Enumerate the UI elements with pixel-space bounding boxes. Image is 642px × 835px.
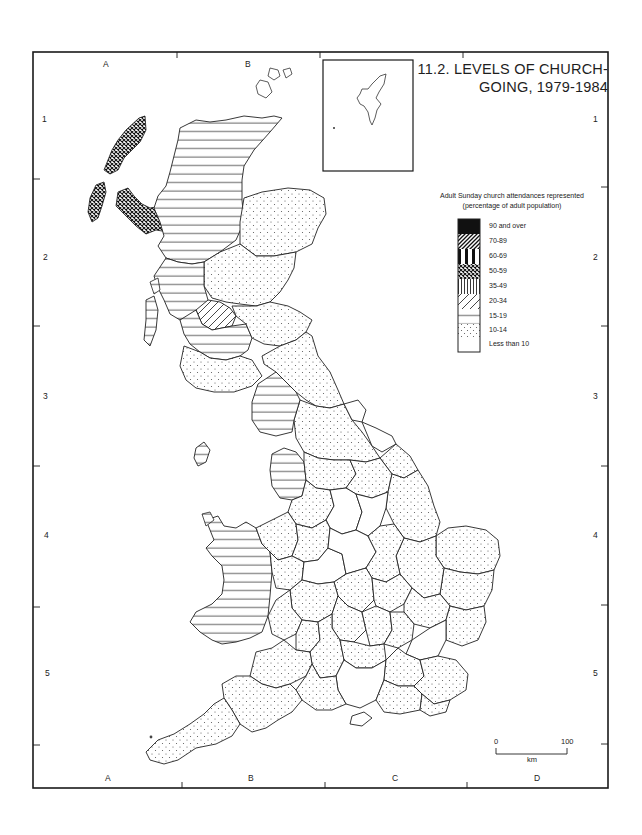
legend-label: 50-59 [489, 267, 507, 274]
grid-row-label: 2 [43, 252, 48, 262]
grid-row-label: 4 [593, 530, 598, 540]
legend-label: 70-89 [489, 237, 507, 244]
grid-column-label: C [392, 773, 398, 783]
legend-label: 60-69 [489, 252, 507, 259]
map-figure: 11.2. LEVELS OF CHURCH- GOING, 1979-1984… [0, 0, 642, 835]
title-line-2: GOING, 1979-1984 [416, 78, 608, 96]
legend-heading-line-2: (percentage of adult population) [412, 201, 612, 211]
orkney-islands [256, 68, 292, 98]
legend-label: 90 and over [489, 222, 526, 229]
legend-swatch-35-49 [458, 279, 480, 294]
grid-column-label: D [534, 773, 540, 783]
legend-heading-line-1: Adult Sunday church attendances represen… [412, 191, 612, 201]
legend-swatch-90-plus [458, 219, 480, 234]
map-title: 11.2. LEVELS OF CHURCH- GOING, 1979-1984 [416, 60, 608, 96]
legend-swatch-70-89 [458, 234, 480, 249]
shetland-inset-frame [323, 60, 413, 171]
region-cornwall [146, 698, 240, 764]
scale-end: 100 [561, 737, 574, 746]
grid-column-label: A [103, 59, 109, 69]
region-isle-of-man [194, 442, 210, 466]
legend-swatch-60-69 [458, 249, 480, 264]
region-western-isles [104, 116, 146, 174]
scale-unit: km [527, 755, 537, 764]
map-svg [0, 0, 642, 835]
grid-row-label: 3 [593, 391, 598, 401]
legend-label: Less than 10 [489, 340, 529, 347]
scale-start: 0 [494, 737, 498, 746]
grid-row-label: 2 [593, 252, 598, 262]
legend-swatch-20-34 [458, 294, 480, 309]
grid-row-label: 1 [42, 114, 47, 124]
grid-row-label: 1 [593, 114, 598, 124]
region-essex [446, 606, 486, 646]
region-grampian [240, 188, 326, 256]
legend-swatch-10-14 [458, 324, 480, 338]
legend-swatch-15-19 [458, 309, 480, 324]
title-line-1: 11.2. LEVELS OF CHURCH- [416, 60, 608, 78]
legend-swatch-50-59 [458, 264, 480, 279]
grid-row-label: 3 [43, 391, 48, 401]
grid-column-label: B [245, 59, 251, 69]
legend-label: 10-14 [489, 326, 507, 333]
legend-swatch-less-than-10 [458, 338, 480, 352]
isles-of-scilly [150, 736, 153, 739]
legend-swatches [457, 218, 481, 353]
grid-column-label: A [105, 773, 111, 783]
legend-label: 20-34 [489, 297, 507, 304]
region-norfolk [436, 526, 500, 574]
grid-row-label: 5 [593, 668, 598, 678]
legend-label: 35-49 [489, 282, 507, 289]
region-lancashire [270, 448, 306, 500]
grid-row-label: 5 [45, 668, 50, 678]
grid-column-label: B [248, 773, 254, 783]
grid-row-label: 4 [44, 530, 49, 540]
legend-label: 15-19 [489, 312, 507, 319]
legend-heading: Adult Sunday church attendances represen… [412, 191, 612, 210]
region-isle-of-wight [350, 712, 372, 726]
